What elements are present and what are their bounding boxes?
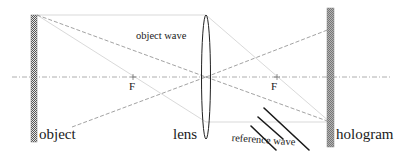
object-plate	[31, 15, 37, 142]
focal-left-label: F	[129, 81, 135, 92]
focal-right-label: F	[271, 81, 277, 92]
hologram-label: hologram	[336, 127, 394, 142]
object-label: object	[39, 127, 76, 142]
hologram-plate	[327, 8, 334, 147]
lens-label: lens	[173, 127, 197, 142]
object-wave-label: object wave	[136, 31, 186, 42]
